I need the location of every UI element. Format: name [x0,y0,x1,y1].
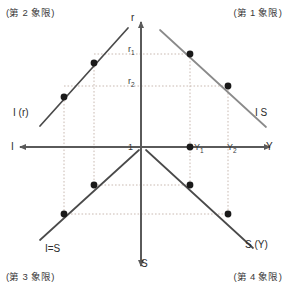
tick-r1-subscript: 1 [131,49,135,56]
curve-saving-q4 [146,150,253,248]
curve-is-q1 [160,30,266,127]
axis-label-S: S [141,258,148,269]
point-q2-I2r1 [91,60,98,67]
quadrant-4-label: (第 4 象限) [234,269,283,283]
curve-equilibrium-q3 [40,150,139,240]
point-q3-I2S2 [91,182,98,189]
guide-lines [64,54,228,214]
origin-tick-label: 1 [128,142,133,152]
tick-label-Y1: Y1 [194,142,204,154]
tick-Y2-subscript: 2 [233,147,237,154]
tick-label-r2: r2 [128,76,135,88]
point-axis-Y1 [187,144,194,151]
point-q1-Y2r2 [225,83,232,90]
quadrant-1-label: (第 1 象限) [234,5,283,19]
tick-Y1-subscript: 1 [200,147,204,154]
point-q1-Y1r1 [187,51,194,58]
axis-label-I: I [11,141,14,152]
curves [40,28,266,248]
quadrant-2-label: (第 2 象限) [6,5,55,19]
point-q4-Y1S2 [187,182,194,189]
tick-label-r1: r1 [128,44,135,56]
four-quadrant-diagram: (第 2 象限) (第 1 象限) (第 3 象限) (第 4 象限) r S … [0,0,288,288]
quadrant-3-label: (第 3 象限) [6,269,55,283]
axis-label-r: r [131,12,134,23]
curve-label-saving: S (Y) [245,239,268,250]
curve-label-investment: I (r) [13,107,29,118]
curve-label-is: I S [255,107,267,118]
tick-label-Y2: Y2 [227,142,237,154]
curve-investment-q2 [40,28,128,126]
point-q3-I1S1 [61,211,68,218]
point-q2-I1r2 [61,94,68,101]
point-q4-Y2S1 [225,211,232,218]
curve-label-equilibrium: I=S [45,243,60,254]
tick-r2-subscript: 2 [131,81,135,88]
axis-label-Y: Y [266,141,273,152]
